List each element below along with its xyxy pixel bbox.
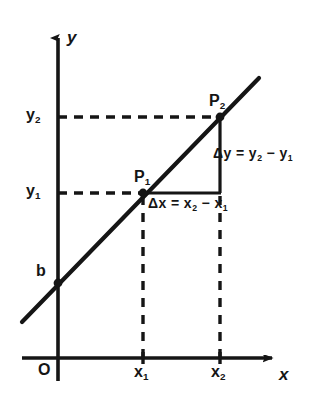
point-label-p2: P2	[209, 93, 225, 109]
y2-tick-label: y2	[26, 107, 40, 123]
y-axis-label: y	[67, 29, 76, 46]
y-intercept-label: b	[36, 263, 46, 279]
delta-x-mid: − x	[197, 195, 222, 211]
x1-tick-label-subscript: 1	[143, 371, 149, 382]
y2-tick-label-subscript: 2	[35, 114, 41, 125]
delta-y-annotation: Δy = y2 − y1	[213, 146, 293, 160]
delta-x-subscript-1: 1	[223, 203, 228, 213]
x1-tick-label: x1	[134, 364, 148, 380]
point-marker-p2	[216, 113, 225, 122]
delta-x-subscript-2: 2	[192, 203, 197, 213]
y1-tick-label-base: y	[26, 182, 35, 199]
x2-tick-label: x2	[211, 364, 225, 380]
slope-diagram-figure: y x O y2 y1 b x1 x2 P1 P2 Δy = y2 − y1 Δ…	[0, 0, 323, 419]
x2-tick-label-base: x	[211, 363, 220, 380]
x-axis-label: x	[279, 366, 288, 383]
y1-tick-label-subscript: 1	[35, 190, 41, 201]
point-label-p1-subscript: 1	[145, 176, 151, 187]
point-label-p2-subscript: 2	[220, 100, 226, 111]
y1-tick-label: y1	[26, 183, 40, 199]
delta-y-lead: Δy = y	[213, 145, 257, 161]
delta-y-subscript-2: 2	[257, 153, 262, 163]
point-marker-intercept	[54, 279, 63, 288]
x1-tick-label-base: x	[134, 363, 143, 380]
y2-tick-label-base: y	[26, 106, 35, 123]
delta-x-lead: Δx = x	[148, 195, 192, 211]
x2-tick-label-subscript: 2	[220, 371, 226, 382]
point-label-p1-base: P	[134, 168, 145, 185]
point-label-p2-base: P	[209, 92, 220, 109]
point-label-p1: P1	[134, 169, 150, 185]
delta-y-subscript-1: 1	[288, 153, 293, 163]
delta-x-annotation: Δx = x2 − x1	[148, 196, 228, 210]
origin-label: O	[38, 362, 50, 378]
point-marker-p1	[139, 189, 148, 198]
delta-y-mid: − y	[262, 145, 287, 161]
